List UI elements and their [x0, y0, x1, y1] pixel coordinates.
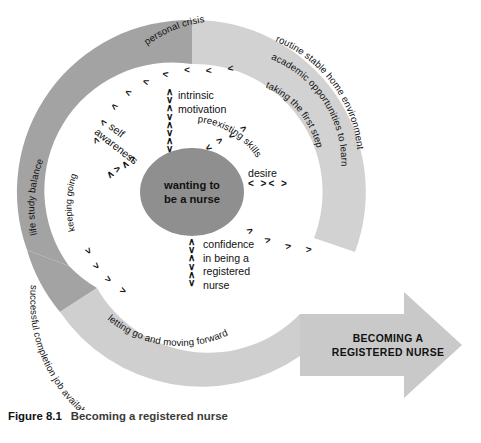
- label-confidence-3: registered: [203, 265, 254, 279]
- chevron-row-desire: < >< >: [248, 180, 289, 188]
- desire-group: desire < >< >: [248, 167, 289, 188]
- svg-text:<: <: [123, 86, 134, 99]
- label-confidence-2: in being a: [203, 252, 254, 266]
- outcome-arrow: [300, 292, 462, 398]
- core-label-line1: wanting to: [163, 179, 220, 191]
- intrinsic-motivation-group: ∧∨∧∨ ∧∨∧∨ intrinsic motivation: [166, 88, 226, 154]
- svg-text:<: <: [109, 100, 121, 112]
- figure-caption: Figure 8.1 Becoming a registered nurse: [8, 410, 228, 422]
- label-motivation: motivation: [178, 102, 226, 116]
- figure-title: Becoming a registered nurse: [71, 410, 228, 422]
- chevron-stack-intrinsic: ∧∨∧∨ ∧∨∧∨: [166, 88, 173, 154]
- svg-text:<: <: [184, 64, 190, 75]
- chevron-stack-confidence: ∧∨∧∨ ∧∨: [188, 238, 195, 287]
- svg-text:<: <: [205, 65, 212, 76]
- svg-text:>: >: [284, 240, 292, 252]
- confidence-group: ∧∨∧∨ ∧∨ confidence in being a registered…: [188, 238, 254, 292]
- arrow-label-line1: BECOMING A: [353, 333, 424, 344]
- spiral-diagram: personal crisis life study balance keepi…: [0, 0, 481, 410]
- svg-text:>: >: [305, 244, 312, 255]
- core-circle: [140, 148, 244, 236]
- label-intrinsic: intrinsic: [178, 88, 226, 102]
- arc-label-keeping-going: keeping going: [64, 172, 79, 232]
- label-confidence-1: confidence: [203, 238, 254, 252]
- figure-container: personal crisis life study balance keepi…: [0, 0, 481, 443]
- arrow-label-line2: REGISTERED NURSE: [332, 347, 444, 358]
- figure-number: Figure 8.1: [8, 410, 62, 422]
- svg-text:>: >: [82, 246, 95, 257]
- svg-text:<: <: [162, 68, 170, 80]
- label-confidence-4: nurse: [203, 279, 254, 293]
- chevron-pair-self-awareness: ∧ > ∧ >: [104, 163, 138, 171]
- svg-text:>: >: [118, 284, 128, 297]
- svg-text:<: <: [141, 76, 150, 88]
- svg-text:>: >: [91, 260, 103, 272]
- svg-text:>: >: [103, 273, 115, 285]
- core-label-line2: be a nurse: [164, 193, 220, 205]
- svg-text:<: <: [90, 135, 102, 145]
